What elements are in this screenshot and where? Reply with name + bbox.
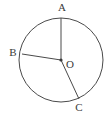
center-point-dot	[59, 58, 62, 61]
point-label-a: A	[58, 2, 66, 13]
radius-ob-line	[22, 54, 61, 60]
center-label-o: O	[66, 59, 74, 70]
geometry-figure: A B C O	[0, 0, 109, 116]
circle-diagram-svg	[0, 0, 109, 116]
point-label-b: B	[9, 47, 16, 58]
point-label-c: C	[75, 102, 82, 113]
